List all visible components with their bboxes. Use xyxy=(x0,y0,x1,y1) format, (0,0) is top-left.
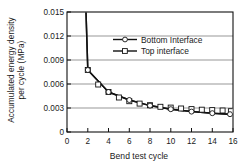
plot-frame xyxy=(67,12,233,132)
x-tick-label: 0 xyxy=(65,137,70,146)
legend-entry-top-interface[interactable] xyxy=(113,49,137,54)
x-tick-label: 14 xyxy=(208,137,217,146)
legend-label-top-interface: Top interface xyxy=(141,46,189,56)
x-axis-tick-labels: 0 2 4 6 8 10 12 14 16 xyxy=(0,137,248,149)
x-axis-ticks xyxy=(67,128,233,132)
series-line-bottom-interface xyxy=(86,12,233,114)
legend: Bottom Interface Top interface xyxy=(113,35,203,57)
x-axis-label: Bend test cycle xyxy=(110,151,168,161)
x-tick-label: 16 xyxy=(228,137,237,146)
chart-figure: Accumulated energy density per cycle (MP… xyxy=(0,0,248,167)
x-tick-label: 10 xyxy=(166,137,175,146)
x-axis-label-wrap: Bend test cycle xyxy=(0,151,248,161)
x-tick-label: 2 xyxy=(86,137,91,146)
series-line-top-interface xyxy=(86,12,233,115)
x-tick-label: 6 xyxy=(127,137,132,146)
data-series-group xyxy=(85,12,233,117)
y-axis-ticks xyxy=(67,12,71,132)
x-tick-label: 8 xyxy=(148,137,153,146)
legend-label-bottom-interface: Bottom Interface xyxy=(141,35,203,45)
square-marker-icon xyxy=(123,49,128,54)
x-tick-label: 12 xyxy=(187,137,196,146)
x-tick-label: 4 xyxy=(106,137,111,146)
circle-marker-icon xyxy=(123,37,128,42)
legend-entry-bottom-interface[interactable] xyxy=(113,37,137,42)
